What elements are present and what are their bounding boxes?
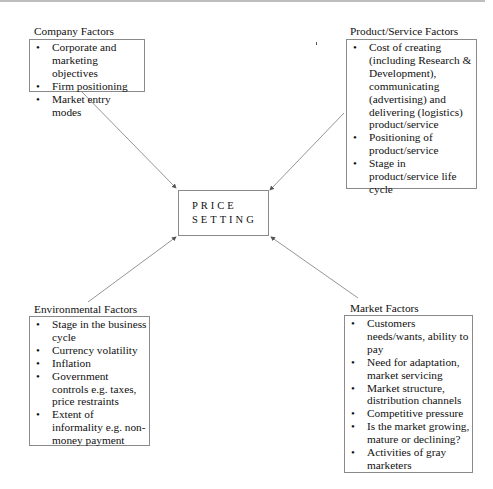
stray-mark — [316, 42, 317, 45]
arrow-environmental-to-price — [88, 237, 176, 302]
list-item: •Inflation — [30, 357, 147, 370]
bullet-icon: • — [36, 357, 40, 370]
list-item: •Stage in product/service life cycle — [347, 157, 474, 196]
price-setting-line2: SETTING — [192, 214, 257, 225]
bullet-icon: • — [36, 93, 40, 106]
bullet-icon: • — [36, 80, 40, 93]
company-factors-box: •Corporate and marketing objectives •Fir… — [29, 39, 145, 92]
environmental-factors-title: Environmental Factors — [34, 303, 137, 316]
environmental-factors-box: •Stage in the business cycle •Currency v… — [29, 316, 150, 446]
product-factors-box: •Cost of creating (including Research & … — [346, 39, 477, 189]
list-item: •Activities of gray marketers — [345, 446, 470, 472]
list-item: •Government controls e.g. taxes, price r… — [30, 370, 147, 409]
arrow-market-to-price — [271, 237, 358, 298]
list-item: •Cost of creating (including Research & … — [347, 41, 474, 131]
list-item: •Competitive pressure — [345, 407, 470, 420]
list-item: •Stage in the business cycle — [30, 318, 147, 344]
market-factors-box: •Customers needs/wants, ability to pay •… — [344, 315, 473, 473]
bullet-icon: • — [351, 317, 355, 330]
price-setting-box: PRICE SETTING — [178, 190, 269, 236]
bullet-icon: • — [36, 318, 40, 331]
price-setting-line1: PRICE — [192, 200, 237, 211]
bullet-icon: • — [351, 446, 355, 459]
product-factors-title: Product/Service Factors — [350, 25, 458, 38]
bullet-icon: • — [351, 382, 355, 395]
list-item: •Firm positioning — [30, 80, 142, 93]
bullet-icon: • — [353, 157, 357, 170]
bullet-icon: • — [351, 420, 355, 433]
list-item: •Is the market growing, mature or declin… — [345, 420, 470, 446]
bullet-icon: • — [353, 41, 357, 54]
bullet-icon: • — [36, 370, 40, 383]
list-item: •Market structure, distribution channels — [345, 382, 470, 408]
arrow-product-to-price — [270, 113, 344, 190]
bullet-icon: • — [351, 356, 355, 369]
market-factors-title: Market Factors — [350, 302, 419, 315]
list-item: •Extent of informality e.g. non-money pa… — [30, 408, 147, 447]
list-item: •Customers needs/wants, ability to pay — [345, 317, 470, 356]
bullet-icon: • — [36, 408, 40, 421]
list-item: •Currency volatility — [30, 344, 147, 357]
bullet-icon: • — [36, 344, 40, 357]
company-factors-title: Company Factors — [34, 25, 114, 38]
list-item: •Market entry modes — [30, 93, 142, 119]
bullet-icon: • — [351, 407, 355, 420]
list-item: •Need for adaptation, market servicing — [345, 356, 470, 382]
list-item: •Positioning of product/service — [347, 131, 474, 157]
list-item: •Corporate and marketing objectives — [30, 41, 142, 80]
bullet-icon: • — [353, 131, 357, 144]
bullet-icon: • — [36, 41, 40, 54]
